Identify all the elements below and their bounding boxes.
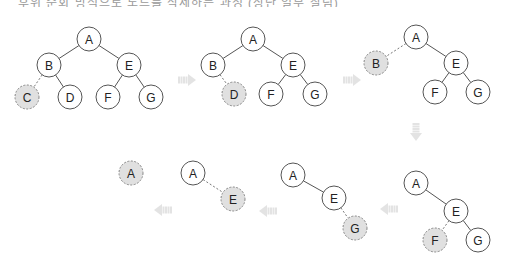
tree-node-a: A: [77, 27, 101, 51]
node-label: A: [412, 31, 420, 45]
edge-e-f: [442, 221, 449, 231]
node-label: A: [249, 33, 257, 47]
tree-node-f: F: [96, 85, 120, 109]
edge-e-g: [463, 221, 470, 231]
tree-node-c-removed: C: [15, 85, 39, 109]
node-label: G: [473, 234, 482, 248]
tree-node-a: A: [241, 27, 265, 51]
tree-node-e: E: [322, 186, 346, 210]
tree-node-a: A: [404, 25, 428, 49]
tree-node-a: A: [281, 163, 305, 187]
node-label: G: [473, 86, 482, 100]
node-label: E: [229, 193, 237, 207]
edge-a-e: [303, 181, 323, 192]
node-label: D: [66, 91, 75, 105]
node-label: F: [267, 88, 274, 102]
tree-panel-step6: AE: [181, 161, 245, 211]
node-label: D: [230, 88, 239, 102]
node-label: A: [85, 33, 93, 47]
arrow-down-icon: [410, 123, 422, 141]
tree-node-f: F: [423, 80, 447, 104]
edge-e-g: [341, 208, 348, 218]
edge-a-e: [263, 46, 283, 59]
edge-e-g: [463, 73, 470, 83]
tree-node-g: G: [466, 228, 490, 252]
tree-node-e: E: [444, 51, 468, 75]
edge-b-c: [34, 75, 42, 87]
tree-node-a: A: [181, 161, 205, 185]
edge-a-b: [386, 44, 406, 57]
node-label: E: [125, 59, 133, 73]
edge-e-g: [300, 75, 307, 85]
tree-node-g: G: [303, 82, 327, 106]
edge-b-d: [220, 75, 227, 85]
node-label: A: [127, 167, 135, 181]
tree-panel-step5: AEG: [281, 163, 367, 240]
tree-panel-step1: ABECDFG: [15, 27, 163, 109]
node-label: A: [289, 169, 297, 183]
tree-panel-step2: ABEDFG: [201, 27, 327, 106]
edge-a-e: [426, 190, 446, 204]
tree-node-e-removed: E: [221, 187, 245, 211]
node-label: B: [372, 57, 380, 71]
edge-a-e: [99, 46, 119, 59]
arrow-left-icon: [259, 205, 277, 217]
tree-node-d: D: [58, 85, 82, 109]
edge-e-g: [136, 75, 144, 87]
node-label: F: [104, 91, 111, 105]
tree-node-g: G: [139, 85, 163, 109]
node-label: G: [310, 88, 319, 102]
tree-node-b-removed: B: [364, 51, 388, 75]
node-label: A: [412, 177, 420, 191]
tree-node-f-removed: F: [423, 228, 447, 252]
edge-e-f: [115, 75, 123, 87]
tree-panel-step7: A: [119, 161, 143, 185]
node-label: E: [452, 57, 460, 71]
edge-a-b: [59, 46, 79, 59]
edge-e-f: [442, 73, 449, 83]
node-label: G: [350, 222, 359, 236]
tree-panel-step4: AEFG: [404, 171, 490, 252]
tree-node-g-removed: G: [343, 216, 367, 240]
tree-node-e: E: [117, 53, 141, 77]
node-label: G: [146, 91, 155, 105]
tree-deletion-diagram: ABECDFGABEDFGABEFGAEFGAEGAEA: [0, 0, 505, 266]
tree-node-e: E: [281, 53, 305, 77]
tree-node-f: F: [259, 82, 283, 106]
arrow-right-icon: [178, 74, 196, 86]
tree-node-e: E: [444, 199, 468, 223]
edge-a-e: [203, 180, 223, 193]
arrow-left-icon: [380, 203, 398, 215]
edge-e-f: [278, 75, 285, 85]
edge-b-d: [56, 75, 64, 87]
tree-node-a-removed: A: [119, 161, 143, 185]
node-label: E: [330, 192, 338, 206]
tree-panel-step3: ABEFG: [364, 25, 490, 104]
node-label: B: [45, 59, 53, 73]
edge-a-e: [426, 44, 446, 57]
edge-a-b: [223, 46, 243, 59]
tree-node-b: B: [37, 53, 61, 77]
tree-node-b: B: [201, 53, 225, 77]
arrow-left-icon: [154, 204, 172, 216]
node-label: E: [452, 205, 460, 219]
arrow-right-icon: [343, 74, 361, 86]
node-label: E: [289, 59, 297, 73]
tree-node-a: A: [404, 171, 428, 195]
node-label: C: [23, 91, 32, 105]
tree-node-d-removed: D: [222, 82, 246, 106]
node-label: A: [189, 167, 197, 181]
node-label: F: [431, 86, 438, 100]
tree-node-g: G: [466, 80, 490, 104]
node-label: F: [431, 234, 438, 248]
node-label: B: [209, 59, 217, 73]
